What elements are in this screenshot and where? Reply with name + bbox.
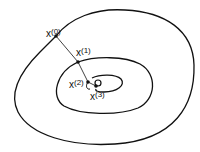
outer-contour [15,10,194,145]
point-x3 [94,84,98,88]
point-x2 [86,80,90,84]
label-x2: x(2) [69,78,84,90]
label-x0: x(0) [46,27,61,39]
contour-diagram: x(0) x(1) x(2) x(3) [0,0,200,152]
label-x3: x(3) [90,90,105,102]
label-x1: x(1) [76,46,91,58]
point-x1 [76,60,80,64]
diagram-svg: x(0) x(1) x(2) x(3) [0,0,200,152]
